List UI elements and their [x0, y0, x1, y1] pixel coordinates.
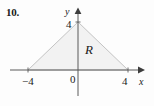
y-tick-label-4: 4	[66, 19, 72, 30]
region-label-R: R	[85, 42, 93, 58]
x-tick-label-pos4: 4	[122, 76, 128, 87]
x-axis-arrowhead	[138, 67, 145, 74]
x-tick-label-neg4: −4	[22, 76, 34, 87]
figure-container: 10. −4 0 4 4 x y R	[0, 0, 154, 106]
y-axis-arrowhead	[75, 8, 82, 15]
y-axis-label: y	[65, 7, 69, 17]
x-axis-label: x	[139, 77, 143, 87]
origin-label: 0	[70, 74, 76, 85]
coordinate-plot	[0, 0, 154, 106]
